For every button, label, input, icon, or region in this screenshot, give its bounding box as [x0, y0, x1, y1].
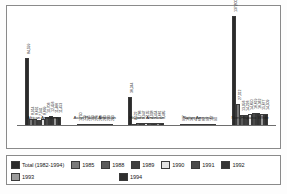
category-label: Hispanic American — [121, 115, 173, 120]
chart-legend: Total (1982-1994)19851988198919901991199… — [6, 155, 281, 185]
legend-item-1990[interactable]: 1990 — [161, 161, 184, 169]
legend-swatch-icon — [161, 161, 170, 169]
legend-label: 1990 — [172, 162, 184, 168]
category-label: Native American — [172, 115, 224, 120]
bar-group-native-american: 93716364066879311790Native American — [172, 10, 224, 126]
bar-group-african-american: 84,5998,9148,6917,9418,89910,70612,45611… — [17, 10, 69, 126]
legend-swatch-icon — [191, 161, 200, 169]
legend-item-total-1982-1994-[interactable]: Total (1982-1994) — [11, 161, 64, 169]
legend-label: 1993 — [22, 174, 34, 180]
legend-swatch-icon — [131, 161, 140, 169]
bar-asian-pacific-american-1994[interactable]: 293 — [109, 10, 113, 126]
legend-label: 1989 — [142, 162, 154, 168]
legend-swatch-icon — [221, 161, 230, 169]
chart-baseline-axis — [17, 125, 276, 126]
legend-item-1991[interactable]: 1991 — [191, 161, 214, 169]
legend-swatch-icon — [11, 161, 20, 169]
legend-label: 1991 — [202, 162, 214, 168]
legend-item-1993[interactable]: 1993 — [11, 173, 119, 181]
legend-label: Total (1982-1994) — [22, 162, 64, 168]
legend-label: 1994 — [130, 174, 142, 180]
bar-non-hispanic-white-1994[interactable]: 14,509 — [264, 10, 268, 126]
legend-swatch-icon — [11, 173, 20, 181]
legend-item-1985[interactable]: 1985 — [71, 161, 94, 169]
bar-native-american-1994[interactable]: 90 — [212, 10, 216, 126]
bar-value-label: 11,453 — [59, 103, 63, 113]
category-label: African American — [17, 115, 69, 120]
legend-item-1989[interactable]: 1989 — [131, 161, 154, 169]
legend-swatch-icon — [119, 173, 128, 181]
legend-swatch-icon — [101, 161, 110, 169]
legend-label: 1988 — [112, 162, 124, 168]
legend-label: 1992 — [232, 162, 244, 168]
category-label: Asian Pacific American — [69, 115, 121, 120]
chart-plot-area: 84,5998,9148,6917,9418,89910,70612,45611… — [17, 10, 276, 126]
bar-value-label: 14,509 — [266, 100, 270, 110]
chart-plot-frame: 84,5998,9148,6917,9418,89910,70612,45611… — [6, 5, 281, 149]
bar-group-asian-pacific-american: 1,750139205193226268283293293Asian Pacif… — [69, 10, 121, 126]
legend-label: 1985 — [82, 162, 94, 168]
legend-item-1994[interactable]: 1994 — [119, 173, 142, 181]
bar-group-non-hispanic-white: 137,80027,01213,95614,22614,65016,61916,… — [224, 10, 276, 126]
bar-hispanic-american-1994[interactable]: 3,485 — [160, 10, 164, 126]
legend-swatch-icon — [71, 161, 80, 169]
legend-item-1992[interactable]: 1992 — [221, 161, 244, 169]
legend-row-primary: Total (1982-1994)19851988198919901991199… — [11, 159, 276, 171]
legend-item-1988[interactable]: 1988 — [101, 161, 124, 169]
chart-page: 84,5998,9148,6917,9418,89910,70612,45611… — [0, 0, 287, 194]
bar-african-american-1994[interactable]: 11,453 — [57, 10, 61, 126]
bar-group-hispanic-american: 36,2442,5223,7863,9474,1054,0083,4543,66… — [121, 10, 173, 126]
legend-row-secondary: 19931994 — [11, 171, 276, 183]
category-label: Non-Hispanic White — [224, 115, 276, 120]
